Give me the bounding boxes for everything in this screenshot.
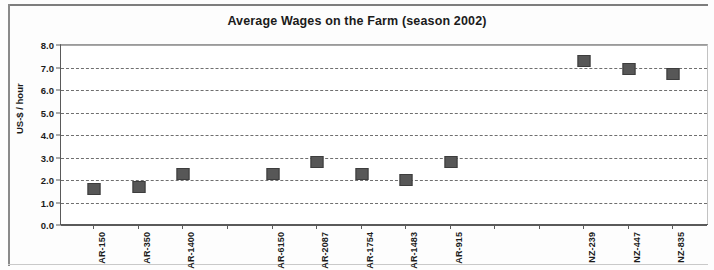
y-tick-label: 3.0 bbox=[41, 152, 54, 163]
y-tick-mark bbox=[56, 202, 61, 203]
y-tick-label: 0.0 bbox=[41, 220, 54, 231]
x-tick-label: NZ-835 bbox=[676, 232, 686, 263]
y-tick-label: 8.0 bbox=[41, 40, 54, 51]
y-tick-label: 7.0 bbox=[41, 62, 54, 73]
x-tick-label: AR-1483 bbox=[409, 232, 419, 269]
y-tick-mark bbox=[56, 180, 61, 181]
page-border-top bbox=[8, 4, 708, 6]
data-point-marker bbox=[444, 156, 457, 168]
page-border-left bbox=[8, 4, 10, 266]
x-tick-mark bbox=[138, 224, 139, 229]
x-tick-label: AR-150 bbox=[97, 232, 107, 264]
chart-figure: Average Wages on the Farm (season 2002) … bbox=[0, 0, 714, 270]
x-tick-label: AR-915 bbox=[454, 232, 464, 264]
y-tick-mark bbox=[56, 112, 61, 113]
data-point-marker bbox=[177, 168, 190, 180]
gridline bbox=[61, 113, 707, 114]
y-tick-label: 4.0 bbox=[41, 130, 54, 141]
x-tick-mark bbox=[316, 224, 317, 229]
data-point-marker bbox=[622, 63, 635, 75]
x-tick-mark bbox=[272, 224, 273, 229]
x-tick-mark bbox=[583, 224, 584, 229]
gridline bbox=[61, 203, 707, 204]
y-tick-label: 1.0 bbox=[41, 197, 54, 208]
x-tick-mark bbox=[539, 224, 540, 229]
data-point-marker bbox=[578, 55, 591, 67]
gridline bbox=[61, 90, 707, 91]
y-tick-mark bbox=[56, 67, 61, 68]
gridline bbox=[61, 135, 707, 136]
x-tick-mark bbox=[182, 224, 183, 229]
chart-title: Average Wages on the Farm (season 2002) bbox=[0, 14, 714, 28]
gridline bbox=[61, 68, 707, 69]
x-tick-mark bbox=[494, 224, 495, 229]
x-tick-mark bbox=[405, 224, 406, 229]
y-tick-label: 5.0 bbox=[41, 107, 54, 118]
data-point-marker bbox=[88, 183, 101, 195]
x-tick-label: AR-1400 bbox=[186, 232, 196, 269]
gridline bbox=[61, 158, 707, 159]
data-point-marker bbox=[667, 68, 680, 80]
gridline bbox=[61, 225, 707, 226]
x-tick-mark bbox=[672, 224, 673, 229]
x-axis-line bbox=[60, 224, 708, 225]
x-tick-label: AR-1754 bbox=[365, 232, 375, 269]
x-tick-label: AR-350 bbox=[142, 232, 152, 264]
x-tick-mark bbox=[450, 224, 451, 229]
gridline bbox=[61, 180, 707, 181]
y-tick-mark bbox=[56, 90, 61, 91]
plot-area: 8.07.06.05.04.03.02.01.00.0 bbox=[60, 44, 708, 224]
x-tick-mark bbox=[361, 224, 362, 229]
y-axis-label: US-$ / hour bbox=[14, 83, 25, 134]
page-border-bottom bbox=[8, 264, 708, 265]
data-point-marker bbox=[311, 156, 324, 168]
y-tick-mark bbox=[56, 45, 61, 46]
x-tick-mark bbox=[93, 224, 94, 229]
y-tick-label: 2.0 bbox=[41, 175, 54, 186]
y-tick-label: 6.0 bbox=[41, 85, 54, 96]
data-point-marker bbox=[266, 168, 279, 180]
x-tick-label: NZ-447 bbox=[632, 232, 642, 263]
y-tick-mark bbox=[56, 157, 61, 158]
x-tick-mark bbox=[227, 224, 228, 229]
data-point-marker bbox=[400, 174, 413, 186]
gridline bbox=[61, 45, 707, 46]
data-point-marker bbox=[132, 181, 145, 193]
y-tick-mark bbox=[56, 135, 61, 136]
x-tick-mark bbox=[628, 224, 629, 229]
data-point-marker bbox=[355, 168, 368, 180]
x-tick-label: AR-2087 bbox=[320, 232, 330, 269]
x-tick-label: AR-6150 bbox=[276, 232, 286, 269]
x-tick-label: NZ-239 bbox=[587, 232, 597, 263]
